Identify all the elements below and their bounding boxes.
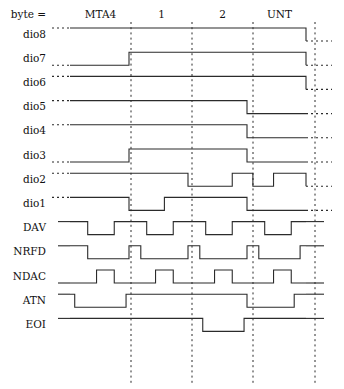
waveform-DAV [70, 222, 306, 235]
signal-row-dio6: dio6 [23, 76, 332, 90]
waveform-dio5 [70, 101, 306, 114]
signal-label-dio5: dio5 [23, 100, 46, 112]
signal-row-dio2: dio2 [23, 173, 332, 187]
signal-row-dio7: dio7 [23, 52, 332, 65]
signal-row-dio8: dio8 [23, 28, 332, 42]
signal-row-dio1: dio1 [23, 197, 332, 211]
waveform-dio3 [70, 149, 306, 162]
signal-row-DAV: DAV [23, 221, 324, 235]
waveform-dio6 [70, 76, 306, 89]
signal-rows: dio8dio7dio6dio5dio4dio3dio2dio1DAVNRFDN… [13, 28, 332, 332]
signal-label-dio3: dio3 [23, 149, 46, 161]
signal-label-dio4: dio4 [23, 124, 46, 136]
waveform-ATN [70, 294, 306, 307]
byte-label-1: 1 [158, 8, 165, 20]
gpib-timing-diagram: byte =MTA412UNT dio8dio7dio6dio5dio4dio3… [0, 0, 344, 389]
signal-row-NDAC: NDAC [13, 270, 324, 284]
byte-label-0: MTA4 [85, 8, 117, 20]
byte-header-label: byte = [11, 8, 46, 20]
waveform-NRFD [70, 246, 306, 259]
signal-label-dio7: dio7 [23, 52, 46, 64]
byte-label-2: 2 [219, 8, 226, 20]
signal-label-EOI: EOI [26, 318, 46, 330]
byte-label-3: UNT [267, 8, 292, 20]
signal-row-ATN: ATN [22, 294, 324, 308]
waveform-dio1 [70, 197, 306, 210]
waveform-dio2 [70, 173, 306, 186]
signal-label-ATN: ATN [22, 294, 46, 306]
signal-label-dio2: dio2 [23, 173, 46, 185]
signal-label-dio6: dio6 [23, 76, 46, 88]
signal-label-dio8: dio8 [23, 28, 46, 40]
waveform-dio7 [70, 52, 306, 65]
signal-label-dio1: dio1 [23, 197, 46, 209]
waveform-dio4 [70, 125, 306, 138]
byte-header-row: byte =MTA412UNT [11, 8, 292, 20]
signal-label-NRFD: NRFD [13, 245, 46, 257]
signal-row-dio3: dio3 [23, 149, 332, 163]
signal-row-dio5: dio5 [23, 100, 332, 114]
signal-label-NDAC: NDAC [13, 270, 46, 282]
signal-label-DAV: DAV [23, 221, 46, 233]
waveform-dio8 [70, 28, 306, 41]
signal-row-dio4: dio4 [23, 124, 332, 138]
signal-row-EOI: EOI [26, 318, 324, 332]
waveform-NDAC [70, 270, 306, 283]
waveform-EOI [70, 318, 306, 331]
signal-row-NRFD: NRFD [13, 245, 324, 258]
